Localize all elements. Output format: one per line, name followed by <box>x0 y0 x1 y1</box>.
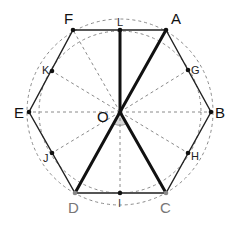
point-c <box>164 191 169 196</box>
label-g: G <box>191 64 200 76</box>
point-h <box>186 151 191 156</box>
point-a <box>164 28 169 33</box>
label-j: J <box>43 152 49 164</box>
point-k <box>50 69 55 74</box>
label-b: B <box>215 104 225 121</box>
point-g <box>186 68 191 73</box>
label-f: F <box>64 10 73 27</box>
label-o: O <box>97 108 109 125</box>
point-l <box>118 28 123 33</box>
point-j <box>50 151 55 156</box>
label-l: L <box>117 16 123 28</box>
segment-oc <box>120 112 166 193</box>
point-i <box>118 191 123 196</box>
label-h: H <box>191 150 199 162</box>
label-a: A <box>171 10 181 27</box>
label-d: D <box>68 199 79 216</box>
point-f <box>71 28 76 33</box>
point-e <box>27 110 32 115</box>
label-c: C <box>160 199 171 216</box>
label-k: K <box>42 64 50 76</box>
point-b <box>209 110 214 115</box>
label-e: E <box>14 104 24 121</box>
label-i: I <box>118 197 121 209</box>
segment-oa <box>120 30 166 112</box>
point-d <box>73 191 78 196</box>
hexagon-diagram: A B C D E F G H I J K L O <box>0 0 239 226</box>
